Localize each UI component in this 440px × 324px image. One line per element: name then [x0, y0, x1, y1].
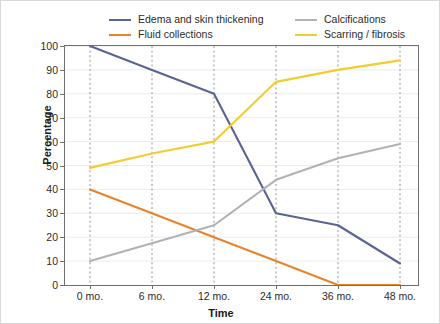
- legend-label: Scarring / fibrosis: [324, 29, 405, 40]
- x-axis-tick-mark: [214, 285, 215, 289]
- series-line: [90, 144, 400, 261]
- x-axis-tick-label: 24 mo.: [246, 291, 306, 301]
- x-axis-tick-label: 48 mo.: [370, 291, 430, 301]
- y-axis-tick-label: 90: [22, 65, 58, 75]
- legend-swatch-icon: [109, 34, 131, 36]
- plot-area: [64, 45, 419, 286]
- chart-legend: Edema and skin thickening Fluid collecti…: [109, 14, 421, 44]
- x-axis-tick-mark: [400, 285, 401, 289]
- legend-label: Calcifications: [324, 14, 386, 25]
- x-axis-tick-label: 36 mo.: [308, 291, 368, 301]
- chart-figure: Edema and skin thickening Fluid collecti…: [0, 0, 440, 324]
- legend-swatch-icon: [295, 19, 317, 21]
- legend-label: Fluid collections: [138, 29, 213, 40]
- legend-swatch-icon: [295, 34, 317, 36]
- legend-swatch-icon: [109, 19, 131, 21]
- x-axis-tick-label: 6 mo.: [122, 291, 182, 301]
- x-axis-tick-mark: [90, 285, 91, 289]
- legend-item-scarring-fibrosis: Scarring / fibrosis: [295, 29, 405, 40]
- y-axis-tick-label: 0: [22, 280, 58, 290]
- legend-label: Edema and skin thickening: [138, 14, 264, 25]
- x-axis-tick-label: 0 mo.: [60, 291, 120, 301]
- legend-item-fluid-collections: Fluid collections: [109, 29, 213, 40]
- y-axis-tick-label: 10: [22, 256, 58, 266]
- legend-item-edema-and-skin-thickening: Edema and skin thickening: [109, 14, 264, 25]
- data-series-lines: [65, 46, 418, 285]
- x-axis-tick-mark: [338, 285, 339, 289]
- y-axis-tick-label: 20: [22, 232, 58, 242]
- x-axis-title: Time: [1, 307, 440, 319]
- x-axis-tick-label: 12 mo.: [184, 291, 244, 301]
- x-axis-tick-mark: [276, 285, 277, 289]
- y-axis-tick-label: 100: [22, 41, 58, 51]
- legend-item-calcifications: Calcifications: [295, 14, 386, 25]
- y-axis-title: Percentage: [41, 75, 53, 195]
- x-axis-tick-mark: [152, 285, 153, 289]
- y-axis-tick-label: 30: [22, 208, 58, 218]
